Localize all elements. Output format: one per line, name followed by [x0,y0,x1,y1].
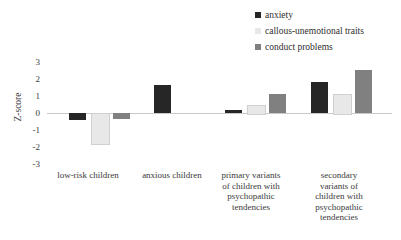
bar-chart: anxiety callous-unemotional traits condu… [0,0,401,240]
legend-label-anxiety: anxiety [265,10,293,20]
legend-swatch-icon-callous-unemotional-traits [255,28,261,34]
bar-anxiety-1 [154,85,171,113]
bar-anxiety-2 [225,110,242,113]
bar-conduct-problems-3 [355,70,372,113]
y-axis-tick--3: -3 [18,160,40,169]
y-axis-tick-1: 1 [18,92,40,101]
legend-item-callous-unemotional-traits: callous-unemotional traits [255,24,401,38]
x-axis-category-label-0: low-risk children [42,170,134,181]
legend-item-anxiety: anxiety [255,8,401,22]
bar-callous-unemotional-traits-2 [247,105,266,116]
y-axis-tick-2: 2 [18,75,40,84]
y-axis-tick-3: 3 [18,58,40,67]
x-axis-category-label-1: anxious children [128,170,216,181]
bar-callous-unemotional-traits-0 [91,113,110,145]
legend-label-callous-unemotional-traits: callous-unemotional traits [265,26,364,36]
bar-conduct-problems-0 [113,113,130,119]
bar-anxiety-0 [69,113,86,120]
y-axis-tick--2: -2 [18,143,40,152]
bar-anxiety-3 [311,82,328,113]
x-axis-category-label-2: primary variantsof children withpsychopa… [208,170,294,212]
bar-callous-unemotional-traits-3 [333,94,352,115]
legend-swatch-icon-anxiety [255,12,261,18]
bar-conduct-problems-2 [269,94,286,113]
y-axis-tick-0: 0 [18,109,40,118]
plot-area [47,40,392,130]
x-axis-category-label-3: secondaryvariants ofchildren withpsychop… [296,170,382,223]
y-axis-tick--1: -1 [18,126,40,135]
